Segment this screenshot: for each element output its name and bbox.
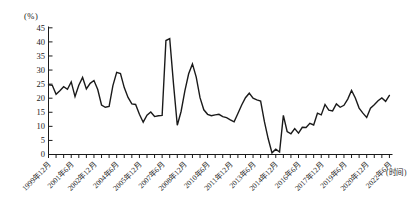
axes — [49, 27, 393, 155]
y-tick-label: 15 — [37, 107, 46, 117]
y-tick-label: 40 — [37, 37, 46, 47]
x-axis-unit-label: (时间) — [386, 166, 407, 177]
y-tick-label: 0 — [41, 149, 45, 159]
y-tick-label: 5 — [41, 135, 45, 145]
y-tick-label: 10 — [37, 121, 46, 131]
y-tick-label: 25 — [37, 79, 46, 89]
line-chart-figure: 0510152025303540451999年12月2001年6月2002年12… — [0, 0, 410, 215]
y-tick-label: 35 — [37, 51, 46, 61]
chart-canvas: 0510152025303540451999年12月2001年6月2002年12… — [0, 0, 410, 215]
y-tick-label: 45 — [37, 23, 46, 33]
y-tick-label: 20 — [37, 93, 46, 103]
data-line — [49, 39, 390, 153]
y-tick-label: 30 — [37, 65, 46, 75]
x-tick-label: 1999年12月 — [20, 160, 53, 193]
y-axis-unit-label: (%) — [24, 11, 38, 21]
